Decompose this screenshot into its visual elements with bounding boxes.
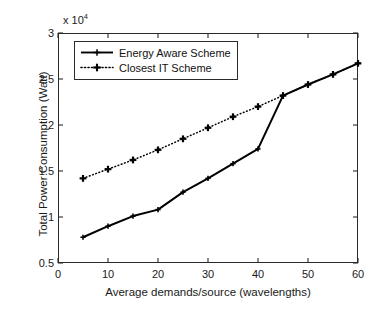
x-tick-label: 50 (302, 268, 314, 280)
chart-figure: x 104 0.511.522.53 0102030405060 Average… (0, 0, 379, 313)
x-tick-label: 40 (252, 268, 264, 280)
y-axis-title: Total Power Consumption (Watt) (37, 39, 49, 269)
x-tick-label: 30 (202, 268, 214, 280)
legend-item-energy-aware-scheme: Energy Aware Scheme (80, 45, 231, 60)
x-axis-title: Average demands/source (wavelengths) (58, 286, 358, 298)
legend-item-closest-it-scheme: Closest IT Scheme (80, 60, 231, 75)
legend-sample-dotted-line-icon (80, 61, 114, 74)
legend-label-closest-it-scheme: Closest IT Scheme (119, 62, 212, 74)
x-tick-label: 0 (55, 268, 61, 280)
x-tick-label: 20 (152, 268, 164, 280)
legend-sample-solid-line-icon (80, 46, 114, 59)
chart-legend: Energy Aware Scheme Closest IT Scheme (74, 41, 238, 80)
x-tick-label: 10 (102, 268, 114, 280)
legend-label-energy-aware-scheme: Energy Aware Scheme (119, 47, 231, 59)
x-tick-label: 60 (352, 268, 364, 280)
